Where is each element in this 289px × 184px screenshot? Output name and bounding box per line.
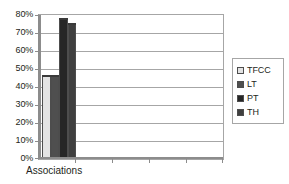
legend-swatch-th: [237, 109, 244, 116]
chart-legend: TFCC LT PT TH: [232, 58, 284, 124]
bar-pt[interactable]: [59, 18, 68, 158]
y-tick-label-60: 60%: [0, 46, 33, 55]
y-tick-label-10: 10%: [0, 136, 33, 145]
legend-swatch-lt: [237, 81, 244, 88]
y-tick-label-20: 20%: [0, 118, 33, 127]
y-axis-line: [39, 15, 41, 159]
y-tick-label-80: 80%: [0, 10, 33, 19]
bar-tfcc-top: [42, 75, 51, 77]
legend-item-lt[interactable]: LT: [237, 77, 280, 91]
bar-lt[interactable]: [51, 75, 59, 158]
y-tick-label-30: 30%: [0, 100, 33, 109]
legend-label-lt: LT: [247, 80, 257, 89]
x-axis-line: [39, 157, 223, 159]
x-axis-tick-3: [149, 159, 150, 163]
bar-tfcc-face: [42, 75, 51, 158]
legend-item-pt[interactable]: PT: [237, 91, 280, 105]
bar-th-top: [68, 23, 76, 25]
bar-chart: 80% 70% 60% 50% 40% 30% 20% 10% 0%: [0, 0, 289, 184]
y-tick-label-70: 70%: [0, 28, 33, 37]
bar-pt-face: [59, 18, 68, 158]
y-tick-label-50: 50%: [0, 64, 33, 73]
bar-group-associations: [42, 14, 76, 158]
x-axis-tick-4: [186, 159, 187, 163]
legend-swatch-pt: [237, 95, 244, 102]
legend-label-th: TH: [247, 108, 259, 117]
legend-item-th[interactable]: TH: [237, 105, 280, 119]
bar-lt-top: [51, 75, 59, 77]
y-axis-tick-labels: 80% 70% 60% 50% 40% 30% 20% 10% 0%: [0, 0, 38, 184]
bar-th[interactable]: [68, 23, 76, 158]
bar-th-face: [68, 23, 76, 158]
legend-label-pt: PT: [247, 94, 258, 103]
x-axis-label: Associations: [26, 165, 82, 176]
legend-swatch-tfcc: [237, 67, 244, 74]
bar-pt-top: [59, 18, 68, 20]
plot-area: [38, 14, 224, 160]
bar-tfcc[interactable]: [42, 75, 51, 158]
y-tick-label-40: 40%: [0, 82, 33, 91]
y-tick-label-0: 0%: [0, 154, 33, 163]
bar-lt-face: [51, 75, 59, 158]
x-axis-tick-5: [222, 159, 223, 163]
legend-label-tfcc: TFCC: [247, 66, 271, 75]
legend-item-tfcc[interactable]: TFCC: [237, 63, 280, 77]
x-axis-tick-1: [75, 159, 76, 163]
x-axis-tick-2: [112, 159, 113, 163]
